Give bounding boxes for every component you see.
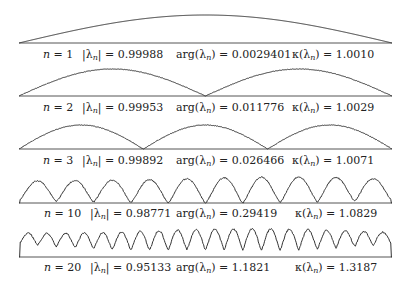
panel-2-waveform bbox=[19, 69, 392, 96]
panel-20-waveform bbox=[19, 228, 392, 257]
row-20-n-label: n = 20 bbox=[44, 262, 81, 274]
row-2-abs-label: |λn| = 0.99953 bbox=[82, 102, 163, 117]
row-10-n-label: n = 10 bbox=[44, 208, 81, 220]
row-3-kappa-label: κ(λn) = 1.0071 bbox=[292, 155, 374, 170]
row-2-arg-label: arg(λn) = 0.011776 bbox=[176, 102, 284, 117]
row-1-arg-label: arg(λn) = 0.0029401 bbox=[176, 49, 291, 64]
row-3-arg-label: arg(λn) = 0.026466 bbox=[176, 155, 284, 170]
eigenvector-waveform-figure bbox=[0, 0, 409, 289]
row-10-abs-label: |λn| = 0.98771 bbox=[90, 208, 171, 223]
row-3-n-label: n = 3 bbox=[43, 155, 73, 167]
panel-3-waveform bbox=[19, 125, 392, 149]
row-1-abs-label: |λn| = 0.99988 bbox=[82, 49, 163, 64]
row-2-kappa-label: κ(λn) = 1.0029 bbox=[292, 102, 374, 117]
row-1-kappa-label: κ(λn) = 1.0010 bbox=[292, 49, 374, 64]
row-10-kappa-label: κ(λn) = 1.0829 bbox=[295, 208, 377, 223]
row-10-arg-label: arg(λn) = 0.29419 bbox=[176, 208, 277, 223]
row-3-abs-label: |λn| = 0.99892 bbox=[82, 155, 163, 170]
row-20-kappa-label: κ(λn) = 1.3187 bbox=[295, 262, 377, 277]
row-20-abs-label: |λn| = 0.95133 bbox=[90, 262, 171, 277]
panel-10-waveform bbox=[19, 177, 392, 203]
row-20-arg-label: arg(λn) = 1.1821 bbox=[176, 262, 270, 277]
row-1-n-label: n = 1 bbox=[43, 49, 73, 61]
panel-1-waveform bbox=[19, 15, 392, 43]
row-2-n-label: n = 2 bbox=[43, 102, 73, 114]
